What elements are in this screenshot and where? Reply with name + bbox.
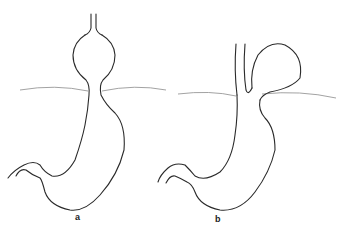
diaphragm-line-a <box>20 87 166 91</box>
panel-a-drawing <box>8 14 166 210</box>
hernia-pouch-b <box>252 44 301 100</box>
stomach-outline-b-right <box>166 100 275 210</box>
stomach-outline-a-left <box>8 35 89 178</box>
esophagus-a <box>85 14 102 35</box>
panel-label-a: a <box>75 212 80 222</box>
stomach-outline-a-right <box>16 35 124 210</box>
figure-canvas <box>0 0 348 235</box>
panel-label-b: b <box>215 214 221 224</box>
esophagus-b <box>235 44 252 95</box>
stomach-outline-b-left <box>158 95 237 182</box>
panel-b-drawing <box>158 44 336 210</box>
diaphragm-line-b <box>178 92 336 98</box>
